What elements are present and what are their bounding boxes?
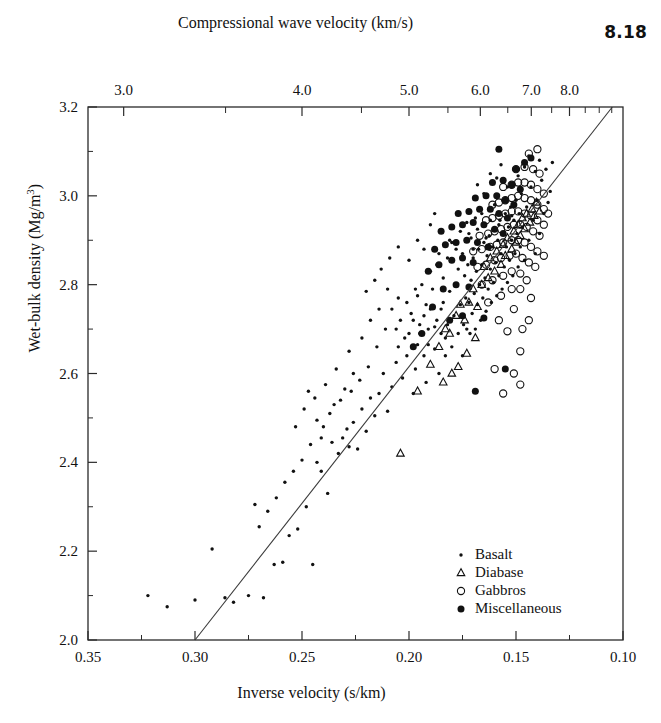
data-point [397,449,405,456]
data-point [516,265,519,268]
data-point [500,177,507,184]
data-point [425,268,432,275]
data-point [519,245,522,248]
legend-label: Miscellaneous [475,600,562,616]
y-axis-labels: 2.02.22.42.62.83.03.2 [59,99,78,648]
data-point [462,323,465,326]
data-point [439,378,447,385]
data-point [405,354,408,357]
data-point [549,190,552,193]
data-point [476,227,479,230]
y-tick-label: 2.4 [59,454,78,470]
data-point [527,155,534,162]
data-point [470,259,477,266]
legend[interactable]: BasaltDiabaseGabbrosMiscellaneous [457,546,562,616]
series-basalt [146,154,554,608]
legend-marker-small-filled-dot [459,553,462,556]
data-point [343,387,346,390]
data-point [491,267,499,274]
data-point [442,301,445,304]
data-point [540,206,547,213]
data-point [394,361,397,364]
data-point [469,279,472,282]
data-point [302,407,305,410]
data-point [516,174,519,177]
data-point [519,254,526,261]
data-point [525,205,528,208]
data-point [468,332,471,335]
data-point [258,525,261,528]
data-point [347,350,350,353]
data-point [397,345,400,348]
data-point [504,328,511,335]
data-point [373,279,376,282]
data-point [375,345,378,348]
data-point [502,366,509,373]
legend-item-basalt[interactable]: Basalt [459,546,513,562]
data-point [360,407,363,410]
data-point [397,245,400,248]
data-point [480,221,487,228]
y-tick-label: 3.0 [59,188,78,204]
data-point [510,370,517,377]
data-point [373,414,376,417]
data-point [377,392,380,395]
legend-item-miscellaneous[interactable]: Miscellaneous [458,600,562,616]
data-point [384,327,387,330]
data-point [388,256,391,259]
bottom-axis-labels: 0.350.300.250.200.150.10 [75,649,636,665]
data-point [489,267,492,270]
data-point [399,319,402,322]
data-point [422,314,425,317]
top-tick-label: 4.0 [293,82,312,98]
data-point [507,225,510,228]
data-point [315,461,318,464]
scatter-plot: 3.04.05.06.07.08.0 0.350.300.250.200.150… [0,0,661,723]
data-point [369,319,372,322]
legend-label: Diabase [475,564,524,580]
data-point [439,332,442,335]
data-point [448,257,455,264]
data-point [476,206,483,213]
data-point [517,381,524,388]
top-tick-label: 8.0 [560,82,579,98]
data-point [500,287,503,290]
data-point [409,312,412,315]
data-point [465,327,468,330]
figure-page: 8.18 Compressional wave velocity (km/s) … [0,0,661,723]
data-point [345,427,348,430]
legend-item-diabase[interactable]: Diabase [457,564,523,580]
data-point [500,272,507,279]
data-point [506,281,509,284]
data-point [418,330,425,337]
data-point [313,396,316,399]
data-point [530,166,537,173]
data-point [438,228,445,235]
y-axis-ticks [88,107,97,640]
data-point [412,319,415,322]
top-axis-labels: 3.04.05.06.07.08.0 [114,82,579,98]
data-point [536,170,543,177]
data-point [352,372,355,375]
data-point [311,563,314,566]
data-point [435,261,442,268]
data-point [517,286,524,293]
data-point [473,292,476,295]
legend-item-gabbros[interactable]: Gabbros [457,582,526,598]
data-point [326,492,329,495]
data-point [476,232,483,239]
data-point [444,354,447,357]
data-point [414,287,417,290]
data-point [429,223,432,226]
data-point [463,274,466,277]
x-tick-label: 0.35 [75,649,101,665]
data-point [525,259,532,266]
data-point [459,230,462,233]
bottom-axis-ticks [88,631,623,640]
data-point [484,310,487,313]
data-point [427,360,435,367]
data-point [296,527,299,530]
data-point [281,561,284,564]
data-point [517,348,524,355]
data-point [534,248,541,255]
